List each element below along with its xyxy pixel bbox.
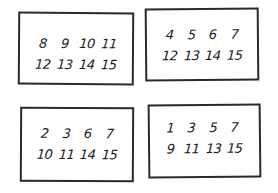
card-number: 7 xyxy=(223,120,245,135)
card-number: 3 xyxy=(55,126,78,141)
card-bottom-right: 1 3 5 7 9 11 13 15 xyxy=(148,103,262,178)
card-number: 15 xyxy=(97,57,120,72)
card-number-grid: 1 3 5 7 9 11 13 15 xyxy=(150,119,259,156)
card-number: 1 xyxy=(159,120,181,135)
card-number: 7 xyxy=(98,126,121,141)
card-number-grid: 8 9 10 11 12 13 14 15 xyxy=(20,36,132,73)
card-number: 5 xyxy=(180,27,202,42)
card-number: 6 xyxy=(76,126,99,141)
card-number: 12 xyxy=(31,57,54,72)
card-number: 11 xyxy=(97,36,120,51)
card-number: 14 xyxy=(202,48,224,63)
card-number: 9 xyxy=(53,36,76,51)
card-number: 14 xyxy=(75,57,98,72)
card-number: 15 xyxy=(223,48,245,63)
card-number: 12 xyxy=(159,48,181,63)
card-number: 9 xyxy=(160,141,182,156)
card-number: 7 xyxy=(223,27,245,42)
card-number: 10 xyxy=(75,36,98,51)
card-number-grid: 4 5 6 7 12 13 14 15 xyxy=(147,27,257,64)
card-number: 14 xyxy=(76,147,99,162)
card-number: 11 xyxy=(181,141,203,156)
card-top-left: 8 9 10 11 12 13 14 15 xyxy=(18,12,135,86)
card-number: 13 xyxy=(180,48,202,63)
card-top-right: 4 5 6 7 12 13 14 15 xyxy=(145,8,260,82)
card-number: 2 xyxy=(33,126,56,141)
card-number: 15 xyxy=(98,147,121,162)
card-number: 13 xyxy=(202,141,224,156)
card-number: 3 xyxy=(181,120,203,135)
card-number: 10 xyxy=(33,147,56,162)
card-number: 13 xyxy=(53,57,76,72)
card-number: 6 xyxy=(201,27,223,42)
card-number: 11 xyxy=(55,147,78,162)
card-number: 5 xyxy=(202,120,224,135)
card-number: 15 xyxy=(223,141,245,156)
card-number-grid: 2 3 6 7 10 11 14 15 xyxy=(22,126,132,163)
card-bottom-left: 2 3 6 7 10 11 14 15 xyxy=(20,107,134,183)
card-number: 4 xyxy=(158,27,180,42)
card-number: 8 xyxy=(31,36,54,51)
